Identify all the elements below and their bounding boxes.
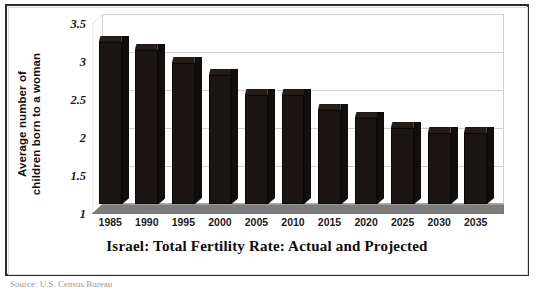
x-axis-tick-label-2025: 2025 bbox=[384, 216, 421, 228]
bar-2025 bbox=[391, 128, 414, 204]
x-axis-tick-label-1990: 1990 bbox=[129, 216, 166, 228]
bar-2005 bbox=[245, 95, 268, 204]
bar-front-face bbox=[172, 63, 195, 204]
bar-front-face bbox=[99, 42, 122, 204]
bar-top-face bbox=[318, 104, 341, 110]
bar-front-face bbox=[282, 95, 305, 204]
bar-front-face bbox=[209, 75, 232, 204]
bar-side-face bbox=[451, 127, 458, 204]
bar-2000 bbox=[209, 75, 232, 204]
bar-top-face bbox=[464, 127, 487, 133]
y-axis-title-line-2: children born to a woman bbox=[29, 19, 43, 229]
source-note-text: Source: U.S. Census Bureau bbox=[10, 280, 330, 289]
bar-side-face bbox=[122, 36, 129, 204]
bar-top-face bbox=[245, 89, 268, 95]
bar-2020 bbox=[355, 118, 378, 204]
bar-front-face bbox=[135, 50, 158, 204]
bar-side-face bbox=[158, 44, 165, 204]
x-axis-tick-label-1985: 1985 bbox=[92, 216, 129, 228]
bar-top-face bbox=[391, 122, 414, 128]
bar-top-face bbox=[172, 57, 195, 63]
y-axis-tick-label: 3 bbox=[40, 55, 86, 70]
y-axis-tick-label: 2 bbox=[40, 131, 86, 146]
bar-side-face bbox=[304, 89, 311, 204]
bar-1990 bbox=[135, 50, 158, 204]
bar-top-face bbox=[355, 112, 378, 118]
x-axis-tick-labels: 1985199019952000200520102015202020252030… bbox=[92, 216, 504, 234]
x-axis-tick-label-2005: 2005 bbox=[238, 216, 275, 228]
y-axis-tick-label: 3.5 bbox=[40, 17, 86, 32]
bar-top-face bbox=[209, 69, 232, 75]
y-axis-tick-label: 1.5 bbox=[40, 169, 86, 184]
bar-side-face bbox=[195, 57, 202, 204]
y-axis-tick-label: 2.5 bbox=[40, 93, 86, 108]
bar-side-face bbox=[414, 122, 421, 204]
chart-title: Israel: Total Fertility Rate: Actual and… bbox=[20, 238, 514, 255]
bar-2015 bbox=[318, 110, 341, 204]
x-axis-tick-label-2015: 2015 bbox=[311, 216, 348, 228]
x-axis-tick-label-2000: 2000 bbox=[202, 216, 239, 228]
grid-line bbox=[102, 204, 504, 205]
plot-area: 3.532.521.51 bbox=[92, 14, 504, 214]
bar-top-face bbox=[428, 127, 451, 133]
y-axis-title-line-1: Average number of bbox=[15, 19, 29, 229]
bar-front-face bbox=[245, 95, 268, 204]
bar-2010 bbox=[282, 95, 305, 204]
bar-side-face bbox=[487, 127, 494, 204]
bar-front-face bbox=[391, 128, 414, 204]
bar-front-face bbox=[318, 110, 341, 204]
x-axis-tick-label-2035: 2035 bbox=[457, 216, 494, 228]
grid-line bbox=[102, 14, 504, 15]
x-axis-tick-label-1995: 1995 bbox=[165, 216, 202, 228]
bar-1995 bbox=[172, 63, 195, 204]
y-axis-title: Average number of children born to a wom… bbox=[15, 19, 43, 229]
bar-top-face bbox=[282, 89, 305, 95]
bar-side-face bbox=[341, 104, 348, 204]
x-axis-tick-label-2010: 2010 bbox=[275, 216, 312, 228]
x-axis-tick-label-2030: 2030 bbox=[421, 216, 458, 228]
bar-top-face bbox=[135, 44, 158, 50]
bar-1985 bbox=[99, 42, 122, 204]
bar-side-face bbox=[231, 69, 238, 204]
bar-2035 bbox=[464, 133, 487, 204]
source-note-clipped: Source: U.S. Census Bureau bbox=[10, 280, 330, 289]
bar-front-face bbox=[428, 133, 451, 204]
bar-top-face bbox=[99, 36, 122, 42]
bar-front-face bbox=[464, 133, 487, 204]
y-axis-tick-label: 1 bbox=[40, 207, 86, 222]
bar-side-face bbox=[268, 89, 275, 204]
x-axis-tick-label-2020: 2020 bbox=[348, 216, 385, 228]
bar-side-face bbox=[377, 112, 384, 204]
bar-front-face bbox=[355, 118, 378, 204]
bar-2030 bbox=[428, 133, 451, 204]
